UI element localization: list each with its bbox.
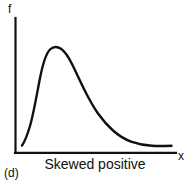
- distribution-plot: [0, 0, 190, 181]
- panel-label: (d): [4, 166, 19, 180]
- figure-caption: Skewed positive: [0, 156, 190, 172]
- skewed-positive-figure: f x Skewed positive (d): [0, 0, 190, 181]
- y-axis-label: f: [8, 3, 11, 15]
- skewed-positive-curve: [22, 47, 172, 146]
